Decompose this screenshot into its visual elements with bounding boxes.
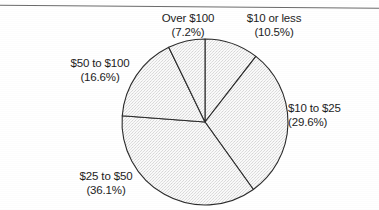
pie-label-10-or-less: $10 or less (10.5%) bbox=[231, 12, 317, 39]
pie-label-10-or-less-name: $10 or less bbox=[231, 12, 317, 26]
pie-label-25-to-50-percent: (36.1%) bbox=[58, 184, 154, 198]
pie-chart-figure: Over $100 (7.2%) $10 or less (10.5%) $50… bbox=[0, 0, 379, 210]
pie-label-10-or-less-percent: (10.5%) bbox=[231, 26, 317, 40]
pie-label-25-to-50: $25 to $50 (36.1%) bbox=[58, 170, 154, 197]
pie-label-over-100: Over $100 (7.2%) bbox=[144, 12, 232, 39]
pie-label-25-to-50-name: $25 to $50 bbox=[58, 170, 154, 184]
pie-label-10-to-25-name: $10 to $25 bbox=[288, 102, 376, 116]
pie-label-over-100-percent: (7.2%) bbox=[144, 26, 232, 40]
pie-label-10-to-25-percent: (29.6%) bbox=[288, 116, 376, 130]
pie-label-50-to-100: $50 to $100 (16.6%) bbox=[50, 57, 150, 84]
pie-label-50-to-100-name: $50 to $100 bbox=[50, 57, 150, 71]
pie-label-over-100-name: Over $100 bbox=[144, 12, 232, 26]
pie-label-50-to-100-percent: (16.6%) bbox=[50, 71, 150, 85]
pie-label-10-to-25: $10 to $25 (29.6%) bbox=[288, 102, 376, 129]
